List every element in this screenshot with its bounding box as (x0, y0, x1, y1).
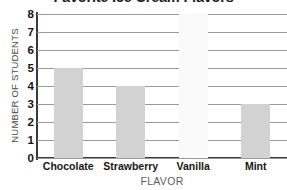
y-tick-label: 7 (17, 26, 34, 38)
plot-area (37, 14, 287, 158)
y-axis-tick-labels: 012345678 (17, 14, 34, 158)
gridline (37, 14, 287, 15)
y-tick-label: 1 (17, 134, 34, 146)
x-tick-label: Mint (245, 160, 267, 172)
y-tick-label: 3 (17, 98, 34, 110)
chart-title: Favorite Ice Cream Flavors (0, 0, 287, 5)
gridline (37, 50, 287, 51)
gridline (37, 158, 287, 159)
x-tick-label: Vanilla (177, 160, 210, 172)
x-axis-tick-labels: ChocolateStrawberryVanillaMint (37, 160, 287, 175)
bar (116, 86, 145, 158)
y-tick-label: 5 (17, 62, 34, 74)
bar (54, 68, 83, 158)
x-tick-label: Strawberry (103, 160, 158, 172)
x-tick-label: Chocolate (43, 160, 94, 172)
y-tick-label: 0 (17, 152, 34, 164)
bar (179, 14, 208, 158)
y-tick-label: 6 (17, 44, 34, 56)
gridline (37, 32, 287, 33)
y-tick-label: 8 (17, 8, 34, 20)
x-axis-label: FLAVOR (37, 175, 287, 187)
bar (241, 104, 270, 158)
y-tick-label: 4 (17, 80, 34, 92)
y-tick-label: 2 (17, 116, 34, 128)
